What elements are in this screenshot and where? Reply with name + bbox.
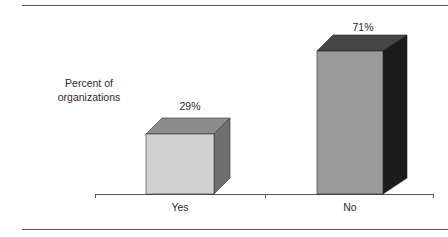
bar-chart (0, 0, 448, 237)
value-label-no: 71% (343, 21, 383, 33)
bar-no-front (317, 51, 383, 194)
category-label-no: No (330, 201, 370, 213)
bar-yes (146, 118, 230, 194)
bar-no (317, 35, 407, 194)
bar-yes-front (146, 134, 214, 194)
category-label-yes: Yes (160, 201, 200, 213)
x-axis (95, 194, 434, 198)
value-label-yes: 29% (170, 100, 210, 112)
bar-no-side (383, 35, 407, 194)
